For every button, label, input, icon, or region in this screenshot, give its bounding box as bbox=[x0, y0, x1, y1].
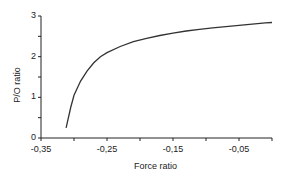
x-tick-label: -0,35 bbox=[31, 144, 52, 154]
x-axis-label: Force ratio bbox=[134, 161, 177, 171]
y-tick-label: 1 bbox=[22, 91, 36, 101]
data-line bbox=[66, 23, 272, 128]
x-tick-label: -0,25 bbox=[97, 144, 118, 154]
y-tick-label: 2 bbox=[22, 51, 36, 61]
x-tick-label: -0,05 bbox=[229, 144, 250, 154]
chart-plot bbox=[0, 0, 282, 183]
y-tick-label: 3 bbox=[22, 10, 36, 20]
y-axis-label: P/O ratio bbox=[12, 60, 22, 110]
x-tick-label: -0,15 bbox=[163, 144, 184, 154]
y-tick-label: 0 bbox=[22, 132, 36, 142]
chart-axes bbox=[38, 16, 272, 141]
